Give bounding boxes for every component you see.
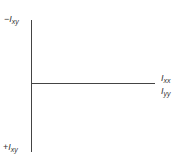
label-iyy: Iyy — [161, 86, 171, 99]
label-subscript: xx — [164, 77, 171, 84]
label-positive-ixy: +Ixy — [3, 142, 18, 155]
label-subscript: yy — [164, 90, 171, 97]
horizontal-axis — [31, 83, 155, 84]
label-negative-ixy: −Ixy — [4, 14, 19, 27]
vertical-axis — [31, 20, 32, 152]
label-subscript: xy — [12, 18, 19, 25]
label-subscript: xy — [11, 146, 18, 153]
label-ixx: Ixx — [161, 73, 171, 86]
